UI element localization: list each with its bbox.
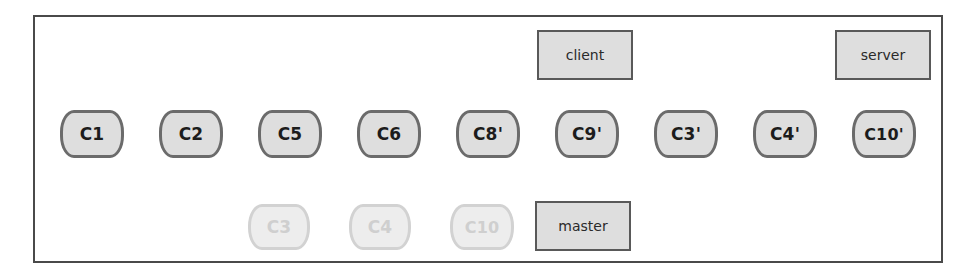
commit-node-c5[interactable]: C5 xyxy=(258,110,322,158)
commit-node-c6[interactable]: C6 xyxy=(357,110,421,158)
ref-label-text: server xyxy=(861,47,905,63)
commit-label: C10 xyxy=(465,218,500,237)
commit-label: C5 xyxy=(278,124,303,144)
ref-label-client[interactable]: client xyxy=(537,30,633,80)
commit-label: C4' xyxy=(770,124,800,144)
ref-label-server[interactable]: server xyxy=(835,30,931,80)
commit-node-c1[interactable]: C1 xyxy=(60,110,124,158)
commit-node-c9-prime[interactable]: C9' xyxy=(555,110,619,158)
commit-node-c3-prime[interactable]: C3' xyxy=(654,110,718,158)
commit-label: C6 xyxy=(377,124,402,144)
commit-node-c8-prime[interactable]: C8' xyxy=(456,110,520,158)
commit-label: C9' xyxy=(572,124,602,144)
commit-node-c4-prime[interactable]: C4' xyxy=(753,110,817,158)
commit-node-c2[interactable]: C2 xyxy=(159,110,223,158)
commit-label: C8' xyxy=(473,124,503,144)
commit-node-c3-abandoned[interactable]: C3 xyxy=(248,204,310,250)
commit-label: C4 xyxy=(368,217,393,237)
commit-label: C2 xyxy=(179,124,204,144)
commit-label: C10' xyxy=(864,125,904,144)
commit-label: C3' xyxy=(671,124,701,144)
commit-label: C3 xyxy=(267,217,292,237)
ref-label-text: master xyxy=(558,218,607,234)
commit-node-c10-abandoned[interactable]: C10 xyxy=(450,204,514,250)
ref-label-master[interactable]: master xyxy=(535,201,631,251)
commit-node-c4-abandoned[interactable]: C4 xyxy=(349,204,411,250)
commit-label: C1 xyxy=(80,124,105,144)
diagram-page: C1 C2 C5 C6 C8' C9' C3' C4' C10' C3 C4 C… xyxy=(0,0,973,278)
ref-label-text: client xyxy=(566,47,604,63)
commit-node-c10-prime[interactable]: C10' xyxy=(852,110,916,158)
